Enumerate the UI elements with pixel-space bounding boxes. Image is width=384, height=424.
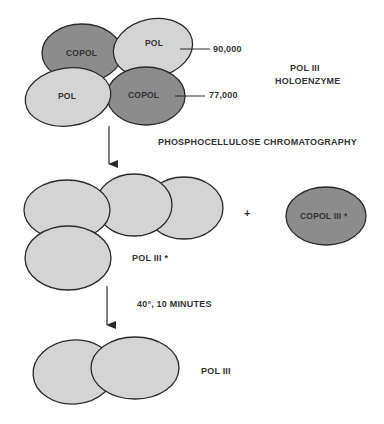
- pol-iii-star-group: [24, 174, 223, 290]
- pol-label-bottom: POL: [58, 91, 76, 101]
- pol-iii-group: [30, 337, 179, 408]
- pol-subunit-f: [91, 337, 179, 399]
- pol-label-top: POL: [145, 38, 163, 48]
- pol-subunit-d: [25, 226, 111, 290]
- mw-lower-label: 77,000: [209, 90, 238, 100]
- holoenzyme-title-line1: POL III: [290, 63, 320, 73]
- step-chromatography-label: PHOSPHOCELLULOSE CHROMATOGRAPHY: [158, 137, 357, 147]
- step-heat-label: 40°, 10 MINUTES: [137, 299, 212, 309]
- holoenzyme-title-line2: HOLOENZYME: [275, 76, 341, 86]
- holoenzyme-group: [21, 11, 210, 131]
- mw-upper-label: 90,000: [213, 44, 242, 54]
- copol-label-top: COPOL: [66, 48, 97, 58]
- pol-iii-label: POL III: [201, 366, 231, 376]
- pol-iii-star-label: POL III *: [132, 253, 168, 263]
- plus-sign: +: [244, 207, 251, 219]
- copol-iii-star-label: COPOL III *: [300, 211, 347, 221]
- copol-label-bottom: COPOL: [128, 90, 159, 100]
